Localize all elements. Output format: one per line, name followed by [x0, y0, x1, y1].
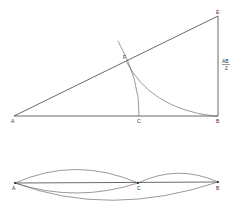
golden-section-diagram: A C B E F AB 2 A C B [0, 0, 245, 208]
label-E: E [216, 9, 220, 15]
segment-AB-bottom [15, 182, 218, 183]
arc-FC-from-A [118, 41, 139, 116]
point-B [217, 181, 219, 183]
point-C [137, 182, 139, 184]
arc-AB-lower [15, 182, 218, 200]
label-A: A [11, 118, 15, 124]
label-F: F [123, 54, 126, 60]
arc-AC-upper [15, 170, 138, 184]
top-construction: A C B E F AB 2 [11, 9, 230, 124]
arc-EF-from-E [126, 61, 218, 116]
label-C-bottom: C [137, 185, 141, 191]
label-side-numerator: AB [222, 58, 229, 64]
label-side-denominator: 2 [225, 65, 228, 71]
arc-CB-upper [138, 173, 218, 183]
bottom-construction: A C B [12, 170, 220, 201]
point-A [14, 182, 16, 184]
label-B-bottom: B [216, 185, 220, 191]
hypotenuse-AE [14, 16, 218, 116]
arc-AC-lower [15, 183, 138, 193]
label-C: C [137, 118, 141, 124]
label-A-bottom: A [12, 185, 16, 191]
label-B: B [216, 118, 220, 124]
